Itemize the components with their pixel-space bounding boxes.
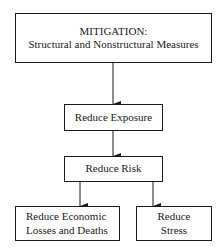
- node-reduce-economic-line2: Losses and Deaths: [26, 224, 108, 237]
- node-mitigation-title: MITIGATION:: [80, 25, 148, 38]
- node-reduce-exposure-label: Reduce Exposure: [75, 111, 152, 124]
- node-reduce-stress-line2: Stress: [161, 224, 187, 237]
- node-reduce-stress: Reduce Stress: [136, 206, 212, 241]
- node-reduce-risk-label: Reduce Risk: [86, 162, 142, 175]
- node-reduce-risk: Reduce Risk: [64, 156, 163, 182]
- node-reduce-economic-line1: Reduce Economic: [26, 210, 106, 223]
- node-reduce-exposure: Reduce Exposure: [64, 104, 163, 131]
- node-reduce-economic-losses: Reduce Economic Losses and Deaths: [15, 206, 120, 241]
- node-reduce-stress-line1: Reduce: [158, 210, 191, 223]
- node-mitigation: MITIGATION: Structural and Nonstructural…: [15, 13, 212, 63]
- node-mitigation-subtitle: Structural and Nonstructural Measures: [28, 38, 198, 51]
